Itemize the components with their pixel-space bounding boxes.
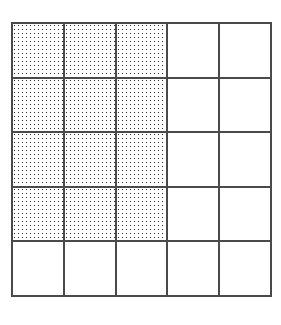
grid-cell-empty: [117, 242, 169, 297]
grid-cell-empty: [220, 188, 272, 243]
grid-cell-shaded: [117, 79, 169, 134]
grid-cell-shaded: [13, 188, 65, 243]
grid-cell-empty: [220, 133, 272, 188]
grid-cell-shaded: [65, 133, 117, 188]
grid-cell-shaded: [13, 24, 65, 79]
grid-cell-empty: [220, 79, 272, 134]
grid-figure: Shaded area model grid A five by five sq…: [0, 0, 281, 325]
grid-cell-empty: [220, 242, 272, 297]
grid-cell-empty: [168, 133, 220, 188]
grid-cell-empty: [168, 188, 220, 243]
grid-cell-shaded: [117, 188, 169, 243]
grid-cell-shaded: [65, 24, 117, 79]
grid-cell-empty: [168, 79, 220, 134]
grid-cell-shaded: [65, 188, 117, 243]
grid-cell-empty: [65, 242, 117, 297]
grid-cell-shaded: [65, 79, 117, 134]
grid-cell-empty: [168, 242, 220, 297]
grid-cell-empty: [13, 242, 65, 297]
grid-cell-shaded: [13, 79, 65, 134]
grid-cell-shaded: [117, 24, 169, 79]
grid-cell-empty: [168, 24, 220, 79]
grid-cell-shaded: [13, 133, 65, 188]
area-model-grid: [11, 22, 272, 297]
grid-cell-empty: [220, 24, 272, 79]
grid-cell-shaded: [117, 133, 169, 188]
